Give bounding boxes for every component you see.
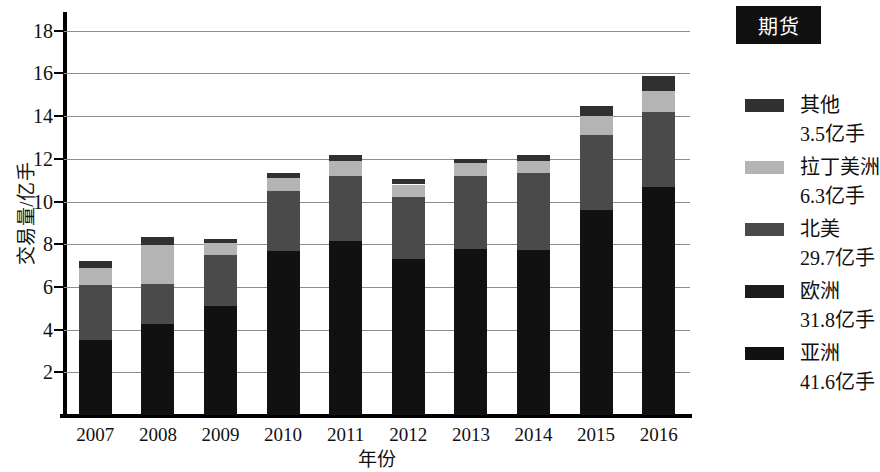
bar-segment-其他: [141, 237, 174, 246]
x-tick-label-2016: 2016: [640, 424, 678, 446]
bar-segment-北美: [141, 284, 174, 325]
bar-segment-亚洲: [580, 210, 613, 415]
bar-2012: [392, 179, 425, 415]
x-tick-label-2012: 2012: [389, 424, 427, 446]
legend-label: 欧洲: [800, 275, 840, 304]
y-tick-label: 10: [33, 190, 53, 213]
x-tick-label-2014: 2014: [515, 424, 553, 446]
y-tick-mark: [54, 243, 63, 245]
y-tick-label: 6: [43, 275, 53, 298]
bar-segment-北美: [267, 191, 300, 251]
bar-segment-北美: [204, 255, 237, 306]
gridline: [64, 31, 690, 32]
y-tick-mark: [54, 286, 63, 288]
legend-entry: 北美29.7亿手: [700, 216, 875, 278]
y-tick-mark: [54, 115, 63, 117]
y-tick-label: 8: [43, 233, 53, 256]
bar-segment-拉丁美洲: [329, 161, 362, 176]
bar-segment-北美: [454, 176, 487, 249]
legend-label: 北美: [800, 213, 840, 242]
bar-segment-其他: [454, 159, 487, 163]
bar-segment-北美: [79, 285, 112, 340]
bar-segment-拉丁美洲: [580, 116, 613, 135]
y-tick-mark: [54, 158, 63, 160]
bar-segment-北美: [580, 135, 613, 210]
bar-segment-其他: [329, 155, 362, 161]
x-tick-label-2007: 2007: [76, 424, 114, 446]
bar-2014: [517, 155, 550, 415]
bar-segment-亚洲: [329, 241, 362, 415]
bar-2007: [79, 261, 112, 415]
y-tick-label: 16: [33, 62, 53, 85]
bar-segment-亚洲: [79, 340, 112, 415]
y-tick-label: 12: [33, 147, 53, 170]
bar-2011: [329, 155, 362, 415]
legend-entry: 亚洲41.6亿手: [700, 340, 875, 402]
bar-2015: [580, 106, 613, 415]
bar-segment-拉丁美洲: [79, 268, 112, 285]
legend-entry: 欧洲31.8亿手: [700, 278, 875, 340]
legend-entry: 其他3.5亿手: [700, 92, 875, 154]
bar-segment-亚洲: [517, 250, 550, 415]
bar-segment-北美: [517, 173, 550, 250]
bar-2010: [267, 173, 300, 415]
legend-swatch-icon: [745, 161, 784, 174]
y-tick-label: 18: [33, 19, 53, 42]
bar-segment-北美: [392, 197, 425, 259]
bar-segment-亚洲: [642, 187, 675, 415]
y-tick-label: 4: [43, 318, 53, 341]
bar-2009: [204, 239, 237, 415]
plot-area: 24681012141618 2007200820092010201120122…: [64, 18, 690, 415]
bar-segment-其他: [204, 239, 237, 243]
bar-segment-其他: [642, 76, 675, 91]
legend-value: 31.8亿手: [800, 304, 875, 333]
gridline: [64, 73, 690, 74]
bar-segment-拉丁美洲: [392, 185, 425, 198]
y-tick-mark: [54, 201, 63, 203]
bar-2013: [454, 159, 487, 415]
bar-segment-拉丁美洲: [204, 243, 237, 255]
x-axis-title: 年份: [64, 444, 690, 471]
plot-inner: 24681012141618 2007200820092010201120122…: [64, 18, 690, 415]
x-tick-label-2015: 2015: [577, 424, 615, 446]
bar-segment-拉丁美洲: [267, 178, 300, 191]
bar-segment-北美: [329, 176, 362, 241]
legend-title: 期货: [736, 6, 821, 44]
legend-label: 拉丁美洲: [800, 151, 880, 180]
bar-2008: [141, 237, 174, 415]
x-tick-label-2013: 2013: [452, 424, 490, 446]
bar-segment-其他: [392, 179, 425, 184]
bar-segment-拉丁美洲: [454, 163, 487, 176]
legend-swatch-icon: [745, 347, 784, 360]
y-tick-mark: [54, 371, 63, 373]
y-tick-mark: [54, 72, 63, 74]
legend-value: 41.6亿手: [800, 366, 875, 395]
legend-value: 6.3亿手: [800, 180, 865, 209]
x-tick-label-2008: 2008: [139, 424, 177, 446]
bar-segment-拉丁美洲: [517, 161, 550, 173]
legend-swatch-icon: [745, 285, 784, 298]
bar-segment-北美: [642, 112, 675, 187]
legend-swatch-icon: [745, 223, 784, 236]
legend-swatch-icon: [745, 99, 784, 112]
bar-segment-亚洲: [392, 259, 425, 415]
legend-value: 3.5亿手: [800, 118, 865, 147]
y-tick-label: 14: [33, 105, 53, 128]
bar-2016: [642, 76, 675, 415]
legend-value: 29.7亿手: [800, 242, 875, 271]
x-tick-label-2010: 2010: [264, 424, 302, 446]
bar-segment-亚洲: [267, 251, 300, 415]
bar-segment-其他: [580, 106, 613, 117]
y-tick-label: 2: [43, 361, 53, 384]
bar-segment-亚洲: [141, 324, 174, 415]
bar-segment-其他: [517, 155, 550, 161]
x-tick-label-2011: 2011: [327, 424, 364, 446]
bar-segment-亚洲: [454, 249, 487, 415]
bar-segment-拉丁美洲: [642, 91, 675, 112]
legend: 期货 其他3.5亿手拉丁美洲6.3亿手北美29.7亿手欧洲31.8亿手亚洲41.…: [700, 0, 875, 472]
y-axis-title: 交易量/亿手: [11, 114, 38, 314]
bar-segment-其他: [267, 173, 300, 178]
x-tick-label-2009: 2009: [202, 424, 240, 446]
y-tick-mark: [54, 30, 63, 32]
